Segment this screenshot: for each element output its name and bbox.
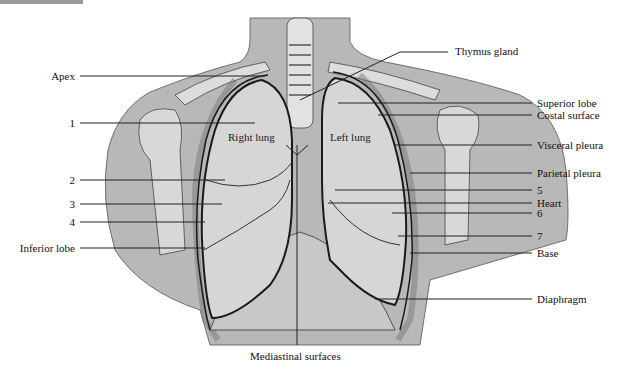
left-lung-label: Left lung <box>330 131 371 143</box>
label-7: 7 <box>537 230 543 242</box>
label-parietal-pleura: Parietal pleura <box>537 167 601 179</box>
label-3: 3 <box>70 198 76 210</box>
anatomy-illustration <box>0 0 620 369</box>
label-4: 4 <box>70 216 76 228</box>
lung-anatomy-figure: Right lung Left lung Apex 1 2 3 4 Inferi… <box>0 0 620 369</box>
right-lung-label: Right lung <box>228 131 275 143</box>
label-thymus-gland: Thymus gland <box>455 45 518 57</box>
label-base: Base <box>537 247 558 259</box>
label-6: 6 <box>537 207 543 219</box>
label-visceral-pleura: Visceral pleura <box>537 139 603 151</box>
label-1: 1 <box>70 117 76 129</box>
label-diaphragm: Diaphragm <box>537 293 586 305</box>
label-2: 2 <box>70 174 76 186</box>
label-apex: Apex <box>51 70 75 82</box>
label-superior-lobe: Superior lobe <box>537 97 597 109</box>
label-5: 5 <box>537 184 543 196</box>
trachea <box>287 18 313 128</box>
label-mediastinal-surfaces: Mediastinal surfaces <box>250 350 341 362</box>
label-inferior-lobe: Inferior lobe <box>20 242 75 254</box>
label-costal-surface: Costal surface <box>537 109 600 121</box>
